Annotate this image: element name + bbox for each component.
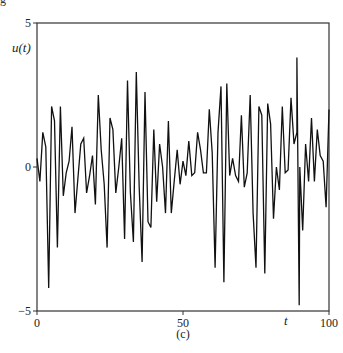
y-axis-ticks: −505 <box>18 16 37 318</box>
y-axis-label: u(t) <box>12 40 31 55</box>
x-axis-label: t <box>284 313 288 328</box>
corner-fragment-text: g <box>0 0 6 6</box>
x-tick-label: 100 <box>320 316 338 330</box>
y-tick-label: 5 <box>25 16 31 30</box>
series-line-u <box>37 58 329 306</box>
y-tick-label: −5 <box>18 304 31 318</box>
chart: g −505 050100 u(t) t (c) <box>0 0 343 353</box>
y-tick-label: 0 <box>25 160 31 174</box>
figure-caption: (c) <box>176 327 189 341</box>
x-tick-label: 0 <box>34 316 40 330</box>
